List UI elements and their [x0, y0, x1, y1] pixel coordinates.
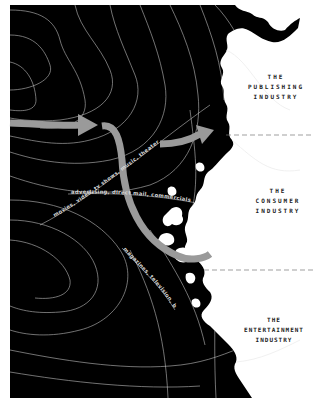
region-label-consumer: THE CONSUMER INDUSTRY [246, 186, 310, 216]
region-label-publishing: THE PUBLISHING INDUSTRY [240, 72, 312, 102]
region-label-entertainment: THE ENTERTAINMENT INDUSTRY [236, 315, 312, 345]
arrow-left-flow [10, 123, 80, 125]
